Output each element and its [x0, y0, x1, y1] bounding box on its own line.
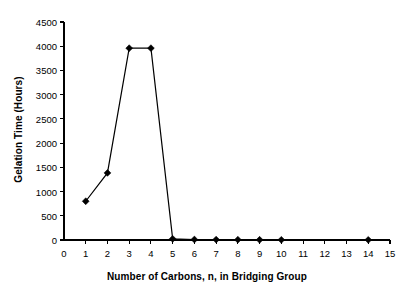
- plot-area: [0, 0, 414, 296]
- gelation-time-line-chart: Gelation Time (Hours) Number of Carbons,…: [0, 0, 414, 296]
- data-point-marker: [278, 236, 285, 243]
- data-point-marker: [213, 236, 220, 243]
- data-point-marker: [365, 236, 372, 243]
- data-point-marker: [256, 236, 263, 243]
- data-point-marker: [234, 236, 241, 243]
- data-point-markers: [82, 45, 371, 243]
- data-point-marker: [191, 236, 198, 243]
- data-point-marker: [148, 45, 155, 52]
- data-point-marker: [126, 45, 133, 52]
- tick-marks: [60, 22, 390, 244]
- series-line: [86, 48, 369, 240]
- data-point-marker: [169, 235, 176, 242]
